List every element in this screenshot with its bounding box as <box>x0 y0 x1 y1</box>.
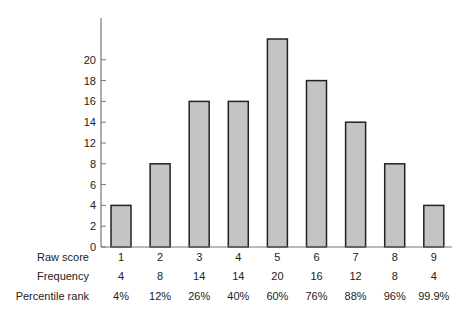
y-tick-label: 16 <box>84 95 96 107</box>
table-cell: 4 <box>218 251 258 263</box>
table-cell: 96% <box>375 290 415 302</box>
y-tick-label: 6 <box>90 179 96 191</box>
table-cell: 4 <box>414 270 454 282</box>
bar-1 <box>111 205 131 247</box>
row-label-raw-score: Raw score <box>37 251 89 263</box>
table-cell: 7 <box>336 251 376 263</box>
y-axis: 024681214161820 <box>84 18 106 253</box>
table-cell: 8 <box>375 251 415 263</box>
table-cell: 14 <box>218 270 258 282</box>
bar-6 <box>307 81 327 247</box>
table-cell: 4% <box>101 290 141 302</box>
y-tick-label: 14 <box>84 116 96 128</box>
table-cell: 12 <box>336 270 376 282</box>
table-cell: 40% <box>218 290 258 302</box>
table-cell: 76% <box>297 290 337 302</box>
y-tick-label: 20 <box>84 54 96 66</box>
table-cell: 4 <box>101 270 141 282</box>
bar-5 <box>267 39 287 247</box>
table-cell: 60% <box>257 290 297 302</box>
table-cell: 16 <box>297 270 337 282</box>
table-cell: 14 <box>179 270 219 282</box>
table-cell: 26% <box>179 290 219 302</box>
y-tick-label: 8 <box>90 158 96 170</box>
y-tick-label: 4 <box>90 199 96 211</box>
bar-2 <box>150 164 170 247</box>
table-cell: 20 <box>257 270 297 282</box>
table-cell: 8 <box>375 270 415 282</box>
frequency-bar-chart: 024681214161820 <box>0 0 470 314</box>
bars <box>111 39 444 247</box>
table-cell: 88% <box>336 290 376 302</box>
y-tick-label: 2 <box>90 220 96 232</box>
row-label-percentile-rank: Percentile rank <box>16 290 89 302</box>
row-label-frequency: Frequency <box>37 270 89 282</box>
bar-8 <box>385 164 405 247</box>
y-tick-label: 12 <box>84 137 96 149</box>
table-cell: 99.9% <box>414 290 454 302</box>
table-cell: 6 <box>297 251 337 263</box>
bar-9 <box>424 205 444 247</box>
table-cell: 2 <box>140 251 180 263</box>
bar-4 <box>228 101 248 247</box>
table-cell: 9 <box>414 251 454 263</box>
table-cell: 12% <box>140 290 180 302</box>
bar-3 <box>189 101 209 247</box>
table-cell: 3 <box>179 251 219 263</box>
table-cell: 5 <box>257 251 297 263</box>
y-tick-label: 18 <box>84 75 96 87</box>
y-tick-label: 0 <box>90 241 96 253</box>
bar-7 <box>346 122 366 247</box>
table-cell: 8 <box>140 270 180 282</box>
table-cell: 1 <box>101 251 141 263</box>
